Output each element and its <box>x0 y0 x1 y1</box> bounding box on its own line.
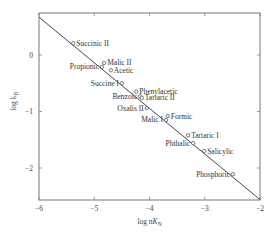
circle-marker-icon <box>166 114 169 117</box>
data-point: Phthalic <box>166 139 195 148</box>
circle-marker-icon <box>72 41 75 44</box>
x-axis-label: log nKN <box>137 217 161 227</box>
circle-marker-icon <box>140 96 143 99</box>
point-label: Propionic <box>70 62 100 71</box>
point-label: Phthalic <box>166 139 191 148</box>
point-label: Succine I <box>91 79 120 88</box>
x-axis-ticks: −6−5−4−3−2 <box>35 13 264 213</box>
x-tick-label: −6 <box>35 204 43 213</box>
circle-marker-icon <box>186 134 189 137</box>
point-label: Tartaric II <box>145 93 176 102</box>
x-tick-label: −5 <box>90 204 98 213</box>
data-point: Phosphoric <box>196 170 234 179</box>
data-point: Acetic <box>109 66 134 75</box>
y-tick-label: −1 <box>25 107 33 116</box>
circle-marker-icon <box>120 82 123 85</box>
data-point: Oxalis II <box>117 104 148 113</box>
circle-marker-icon <box>191 141 194 144</box>
point-label: Phosphoric <box>196 170 230 179</box>
point-label: Benzoic <box>113 92 138 101</box>
x-tick-label: −2 <box>256 204 264 213</box>
y-tick-label: −2 <box>25 164 33 173</box>
data-point: Salicylic <box>202 147 234 156</box>
data-point: Succine I <box>91 79 124 88</box>
circle-marker-icon <box>109 69 112 72</box>
point-label: Salicylic <box>207 147 234 156</box>
circle-marker-icon <box>231 173 234 176</box>
point-label: Tartaric I <box>191 131 219 140</box>
data-point: Formic <box>166 112 193 121</box>
circle-marker-icon <box>145 106 148 109</box>
circle-marker-icon <box>202 149 205 152</box>
x-tick-label: −3 <box>201 204 209 213</box>
point-label: Malic I <box>141 115 163 124</box>
point-label: Formic <box>171 112 193 121</box>
circle-marker-icon <box>100 65 103 68</box>
data-point: Propionic <box>70 62 104 71</box>
circle-marker-icon <box>102 61 105 64</box>
x-tick-label: −4 <box>146 204 154 213</box>
point-label: Acetic <box>114 66 134 75</box>
y-tick-label: 0 <box>29 51 33 60</box>
data-point: Succinic II <box>72 39 110 48</box>
y-axis-label: log kB <box>9 92 19 111</box>
circle-marker-icon <box>164 118 167 121</box>
point-label: Oxalis II <box>117 104 144 113</box>
data-point: Tartaric I <box>186 131 219 140</box>
point-label: Succinic II <box>76 39 109 48</box>
data-point: Tartaric II <box>140 93 175 102</box>
scatter-chart: −6−5−4−3−2 0−1−2 Succinic IIMalic IIProp… <box>0 0 276 235</box>
